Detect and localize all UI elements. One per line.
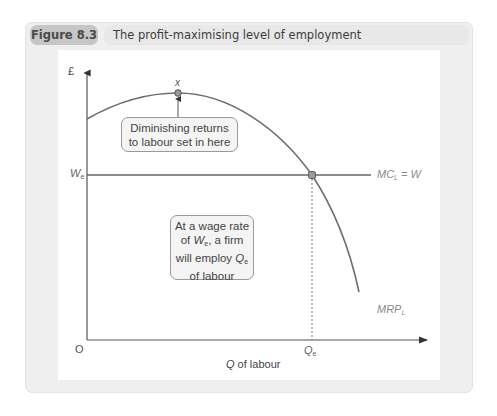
mrp-curve-label: MRPL <box>377 303 405 316</box>
we-tick-label: We <box>70 167 84 180</box>
mc-line-label: MCL = W <box>377 168 421 181</box>
wage-rate-callout: At a wage rate of We, a firm will employ… <box>170 215 254 280</box>
peak-marker <box>175 90 182 97</box>
equilibrium-marker <box>309 172 316 179</box>
diminishing-returns-callout: Diminishing returns to labour set in her… <box>121 117 238 152</box>
x-axis-label: Q of labour <box>226 358 280 370</box>
y-axis-label: £ <box>68 65 74 77</box>
qe-tick-label: Qe <box>304 344 316 357</box>
peak-label: x <box>175 77 180 88</box>
origin-label: O <box>75 343 84 355</box>
